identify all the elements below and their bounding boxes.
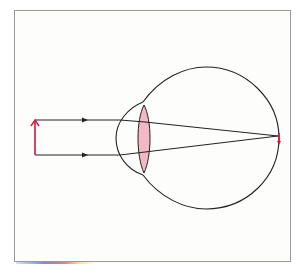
image-arrowhead-icon [277,141,281,145]
eye-ray-diagram [0,0,303,276]
ray-top-arrowhead-icon [82,118,88,123]
ray-bottom-arrowhead-icon [82,153,88,158]
lens [138,105,150,173]
